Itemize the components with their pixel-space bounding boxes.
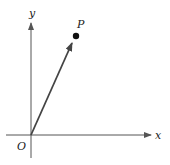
y-axis-label: y <box>28 7 36 20</box>
point-p-dot <box>73 33 79 39</box>
position-vector-arrow <box>31 43 72 135</box>
point-p-label: P <box>76 18 85 31</box>
x-axis-label: x <box>155 129 162 142</box>
origin-label: O <box>17 140 26 153</box>
coordinate-diagram: y x O P <box>0 0 170 165</box>
